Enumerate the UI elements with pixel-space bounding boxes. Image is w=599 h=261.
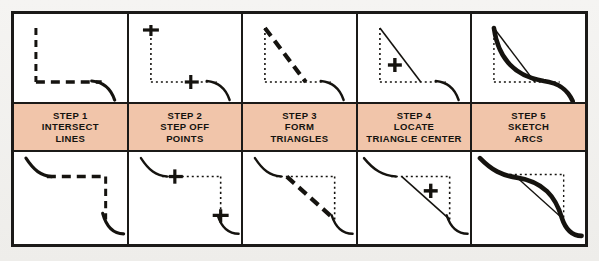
step-5-line1: SKETCH bbox=[508, 121, 549, 132]
figure-page: STEP 1 INTERSECT LINES STEP 2 STEP OFF P… bbox=[0, 0, 599, 261]
step-1-line1: INTERSECT bbox=[42, 121, 99, 132]
solid-curve-tail bbox=[436, 81, 459, 100]
step-1-line2: LINES bbox=[55, 133, 85, 144]
label-step-3: STEP 3 FORM TRIANGLES bbox=[243, 104, 358, 152]
drawing-step-4-bottom bbox=[358, 152, 473, 244]
step-3-line1: FORM bbox=[285, 121, 314, 132]
solid-hypotenuse bbox=[402, 177, 450, 220]
drawing-step-3-bottom bbox=[243, 152, 358, 244]
drawing-step-1-bottom bbox=[14, 152, 129, 244]
step-2-number: STEP 2 bbox=[168, 110, 203, 121]
step-4-number: STEP 4 bbox=[397, 110, 432, 121]
step-5-number: STEP 5 bbox=[511, 110, 546, 121]
solid-curve-head bbox=[255, 158, 281, 176]
bold-dashed-hypotenuse bbox=[265, 28, 306, 82]
top-drawing-row bbox=[14, 14, 585, 104]
label-step-5: STEP 5 SKETCH ARCS bbox=[472, 104, 585, 152]
label-step-2: STEP 2 STEP OFF POINTS bbox=[129, 104, 244, 152]
drawing-step-5-top bbox=[472, 14, 585, 104]
drawing-step-5-bottom bbox=[472, 152, 585, 244]
drawing-step-1-top bbox=[14, 14, 129, 104]
bold-sketched-arc bbox=[494, 28, 573, 101]
bold-sketched-arc bbox=[480, 158, 582, 236]
sketch-form-triangles-bottom bbox=[243, 152, 356, 244]
drawing-step-2-top bbox=[129, 14, 244, 104]
solid-curve-tail bbox=[321, 81, 344, 100]
sketch-intersect-lines-top bbox=[14, 14, 127, 102]
sketch-locate-triangle-center-bottom bbox=[358, 152, 471, 244]
bottom-drawing-row bbox=[14, 152, 585, 244]
drawing-step-3-top bbox=[243, 14, 358, 104]
step-3-number: STEP 3 bbox=[282, 110, 317, 121]
sketch-locate-triangle-center-top bbox=[358, 14, 471, 102]
step-1-number: STEP 1 bbox=[53, 110, 88, 121]
figure-grid: STEP 1 INTERSECT LINES STEP 2 STEP OFF P… bbox=[14, 14, 585, 244]
step-2-line2: POINTS bbox=[166, 133, 203, 144]
solid-curve-head bbox=[141, 158, 167, 176]
solid-curve-head bbox=[364, 158, 396, 176]
bold-dashed-hypotenuse bbox=[287, 177, 335, 220]
label-step-4: STEP 4 LOCATE TRIANGLE CENTER bbox=[358, 104, 473, 152]
label-band-row: STEP 1 INTERSECT LINES STEP 2 STEP OFF P… bbox=[14, 104, 585, 152]
solid-curve-tail bbox=[206, 81, 229, 100]
drawing-step-2-bottom bbox=[129, 152, 244, 244]
step-4-line2: TRIANGLE CENTER bbox=[366, 133, 462, 144]
sketch-arcs-top bbox=[472, 14, 585, 102]
figure-frame: STEP 1 INTERSECT LINES STEP 2 STEP OFF P… bbox=[11, 11, 588, 247]
step-2-line1: STEP OFF bbox=[160, 121, 209, 132]
sketch-arcs-bottom bbox=[472, 152, 585, 244]
drawing-step-4-top bbox=[358, 14, 473, 104]
step-5-line2: ARCS bbox=[515, 133, 543, 144]
step-4-line1: LOCATE bbox=[394, 121, 434, 132]
sketch-step-off-points-bottom bbox=[129, 152, 242, 244]
sketch-form-triangles-top bbox=[243, 14, 356, 102]
sketch-step-off-points-top bbox=[129, 14, 242, 102]
solid-curve-head bbox=[26, 158, 52, 176]
solid-hypotenuse bbox=[380, 28, 421, 82]
label-step-1: STEP 1 INTERSECT LINES bbox=[14, 104, 129, 152]
sketch-intersect-lines-bottom bbox=[14, 152, 127, 244]
step-3-line2: TRIANGLES bbox=[270, 133, 328, 144]
solid-curve-tail bbox=[92, 81, 115, 100]
